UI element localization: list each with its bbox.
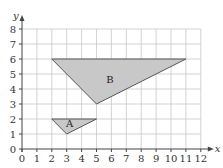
x-tick-label: 4 [78, 153, 84, 164]
y-tick-label: 6 [10, 54, 16, 65]
triangle-a-label: A [65, 118, 74, 129]
y-tick-label: 7 [10, 39, 16, 50]
y-axis-arrow-icon [20, 15, 25, 21]
x-tick-label: 7 [123, 153, 129, 164]
x-tick-label: 11 [180, 153, 193, 164]
x-axis-arrow-icon [208, 147, 214, 152]
y-axis-label: y [12, 10, 19, 21]
x-tick-label: 1 [34, 153, 40, 164]
x-tick-label: 3 [64, 153, 70, 164]
x-tick-label: 12 [194, 153, 207, 164]
x-tick-label: 2 [49, 153, 55, 164]
y-tick-label: 5 [10, 69, 16, 80]
x-tick-label: 6 [108, 153, 114, 164]
x-tick-label: 9 [153, 153, 159, 164]
triangle-a [52, 119, 97, 134]
x-axis-label: x [215, 143, 221, 154]
y-tick-label: 8 [10, 24, 16, 35]
y-tick-label: 4 [10, 84, 16, 95]
y-tick-label: 1 [10, 129, 16, 140]
shapes: AB [52, 59, 186, 134]
x-tick-label: 5 [93, 153, 99, 164]
triangle-b [52, 59, 186, 104]
y-tick-label: 3 [10, 99, 16, 110]
x-tick-label: 10 [165, 153, 178, 164]
x-tick-label: 0 [19, 153, 25, 164]
triangle-b-label: B [106, 74, 113, 85]
y-tick-label: 0 [10, 144, 16, 155]
y-tick-label: 2 [10, 114, 16, 125]
coordinate-grid-diagram: AB 0123456789101112012345678xy [0, 0, 223, 168]
x-tick-label: 8 [138, 153, 144, 164]
